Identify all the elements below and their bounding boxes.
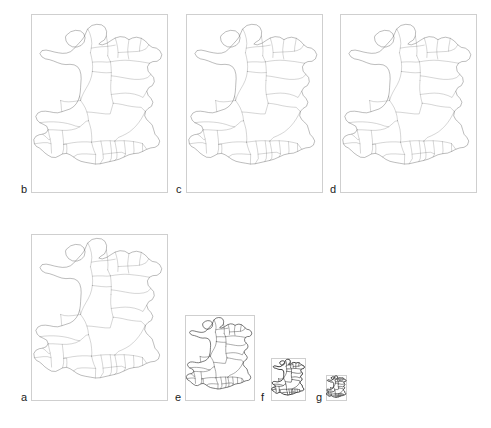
panel-label-c: c [176,184,182,195]
map-panel-c [186,14,323,193]
map-panel-a [31,234,168,401]
map-panel-f [271,358,306,401]
panel-label-b: b [21,184,27,195]
panel-label-a: a [21,392,27,403]
wales-map-a [31,234,168,401]
wales-map-e [185,315,255,401]
panel-label-d: d [330,184,336,195]
wales-map-f [271,358,306,401]
wales-map-b [31,14,168,193]
wales-map-g [326,375,347,401]
wales-map-c [186,14,323,193]
panel-label-e: e [175,392,181,403]
map-panel-e [185,315,255,401]
panel-label-f: f [261,392,264,403]
map-panel-b [31,14,168,193]
panel-label-g: g [316,392,322,403]
wales-map-d [340,14,477,193]
figure-panel-grid: b [0,0,491,428]
map-panel-g [326,375,347,401]
map-panel-d [340,14,477,193]
